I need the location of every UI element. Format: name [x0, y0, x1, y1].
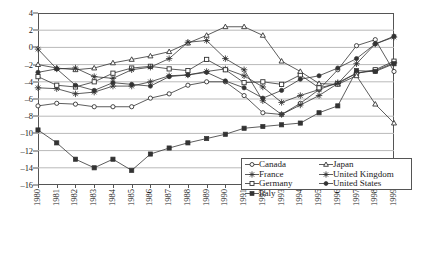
data-point-marker [324, 162, 329, 166]
data-point-marker [92, 105, 96, 109]
data-point-marker [205, 70, 209, 74]
data-point-marker [130, 105, 134, 109]
series-italy [36, 62, 396, 173]
data-point-marker [92, 88, 96, 92]
legend-label: United States [333, 179, 381, 188]
data-point-marker [186, 73, 190, 77]
data-point-marker [205, 57, 209, 61]
data-point-marker [279, 82, 283, 86]
legend-marker-icon [319, 160, 333, 169]
data-point-marker [261, 96, 265, 100]
data-point-marker [373, 69, 377, 73]
data-point-marker [223, 56, 229, 62]
x-tick-label: 1982 [70, 189, 79, 206]
x-tick-mark [113, 185, 114, 188]
series-france [35, 60, 397, 105]
legend-entry-italy[interactable]: Italy [245, 189, 319, 199]
x-tick-mark [38, 185, 39, 188]
data-point-marker [167, 49, 172, 54]
data-point-marker [298, 69, 303, 74]
data-point-marker [111, 157, 115, 161]
y-tick-label: –10 [21, 129, 33, 138]
data-point-marker [166, 56, 172, 62]
data-point-marker [250, 182, 254, 186]
x-tick-mark [188, 185, 189, 188]
data-point-marker [92, 65, 97, 70]
data-point-marker [167, 92, 171, 96]
legend-entry-germany[interactable]: Germany [245, 179, 319, 189]
legend-label: Japan [333, 160, 354, 169]
series-united-states [36, 34, 396, 100]
y-tick-label: –2 [25, 60, 33, 69]
data-point-marker [297, 102, 303, 108]
data-point-marker [36, 70, 40, 74]
y-axis: 420–2–4–6–8–10–12–14–16 [0, 0, 38, 185]
data-point-marker [223, 68, 227, 72]
data-point-marker [392, 62, 396, 66]
legend-entry-united-states[interactable]: United States [319, 179, 409, 189]
data-point-marker [242, 81, 246, 85]
x-tick-mark [150, 185, 151, 188]
data-point-marker [298, 121, 302, 125]
data-point-marker [354, 44, 358, 48]
y-tick-label: –4 [25, 78, 33, 87]
data-point-marker [35, 46, 41, 52]
data-point-marker [324, 182, 328, 186]
data-point-marker [148, 96, 152, 100]
data-point-marker [148, 84, 152, 88]
x-tick-label: 1984 [108, 189, 117, 206]
data-point-marker [260, 33, 265, 38]
data-point-marker [336, 104, 340, 108]
data-point-marker [336, 66, 340, 70]
y-tick-label: –8 [25, 112, 33, 121]
data-point-marker [242, 93, 246, 97]
x-tick-label: 1986 [145, 189, 154, 206]
legend-marker-icon [319, 179, 333, 188]
data-point-marker [73, 91, 79, 97]
legend-marker-icon [245, 170, 259, 179]
data-point-marker [223, 132, 227, 136]
x-tick-label: 1989 [202, 189, 211, 206]
data-point-marker [260, 84, 266, 90]
data-point-marker [250, 163, 254, 167]
data-point-marker [186, 141, 190, 145]
x-tick-label: 1988 [183, 189, 192, 206]
data-point-marker [185, 39, 191, 45]
data-point-marker [167, 67, 171, 71]
data-point-marker [317, 81, 322, 86]
x-tick-label: 1990 [220, 189, 229, 206]
x-tick-label: 1980 [33, 189, 42, 206]
legend-label: Italy [259, 189, 276, 198]
data-point-marker [279, 112, 285, 118]
data-point-marker [317, 111, 321, 115]
data-point-marker [223, 79, 227, 83]
data-point-marker [111, 81, 115, 85]
data-point-marker [205, 80, 209, 84]
data-point-marker [73, 102, 77, 106]
data-point-marker [35, 85, 41, 91]
chart-root: 420–2–4–6–8–10–12–14–16 1980198119821983… [0, 0, 424, 253]
data-point-marker [223, 24, 228, 29]
data-point-marker [205, 136, 209, 140]
x-tick-label: 1981 [52, 189, 61, 206]
data-point-marker [335, 81, 341, 87]
data-point-marker [36, 104, 40, 108]
x-tick-mark [132, 185, 133, 188]
legend-marker-icon [319, 170, 333, 179]
data-point-marker [91, 74, 97, 80]
legend-marker-icon [245, 189, 259, 198]
data-point-marker [130, 82, 134, 86]
data-point-marker [73, 65, 79, 71]
series-united-kingdom [35, 34, 397, 117]
x-tick-mark [207, 185, 208, 188]
data-point-marker [279, 100, 285, 106]
data-point-marker [167, 75, 171, 79]
data-point-marker [392, 69, 396, 73]
series-germany [36, 57, 396, 90]
x-tick-mark [94, 185, 95, 188]
data-point-marker [297, 93, 303, 99]
y-tick-label: –16 [21, 181, 33, 190]
data-point-marker [129, 57, 134, 62]
data-point-marker [111, 71, 115, 75]
data-point-marker [148, 64, 154, 70]
